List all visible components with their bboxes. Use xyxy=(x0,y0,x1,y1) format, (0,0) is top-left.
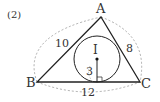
vertex-b-label: B xyxy=(26,76,36,89)
side-ac-length: 8 xyxy=(126,43,133,54)
inradius-length: 3 xyxy=(86,66,93,77)
problem-number: (2) xyxy=(7,10,21,20)
side-bc-length: 12 xyxy=(81,87,95,98)
vertex-c-label: C xyxy=(141,77,151,90)
triangle-diagram xyxy=(0,0,160,102)
side-ab-length: 10 xyxy=(55,38,69,49)
incenter-point xyxy=(95,57,98,60)
vertex-a-label: A xyxy=(96,2,105,15)
incenter-label: I xyxy=(93,44,98,56)
